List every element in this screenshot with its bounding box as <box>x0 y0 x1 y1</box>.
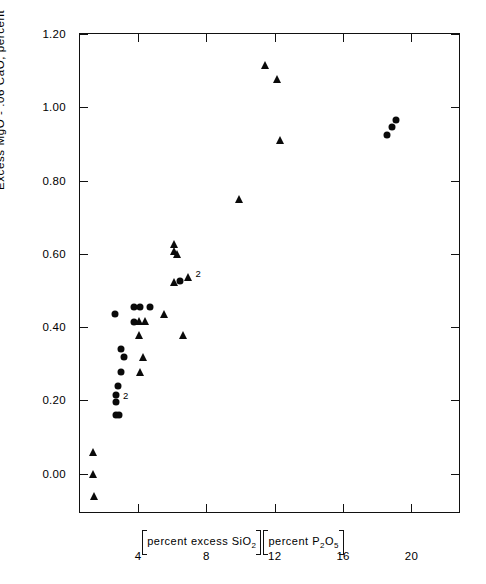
x-axis-tick <box>138 504 139 512</box>
y-axis-tick <box>80 400 88 401</box>
data-point-triangle <box>160 310 168 318</box>
y-axis-tick-label: 0.20 <box>6 394 66 406</box>
data-point-circle <box>383 131 390 138</box>
y-axis-tick-right <box>451 254 459 255</box>
x-axis-p2o5-text: percent P <box>268 535 320 547</box>
x-axis-tick-label: 4 <box>118 550 158 562</box>
data-point-circle <box>111 311 118 318</box>
data-point-triangle <box>135 331 143 339</box>
data-point-triangle <box>141 317 149 325</box>
data-point-circle <box>117 346 124 353</box>
data-point-circle <box>147 303 154 310</box>
y-axis-tick-label: 0.80 <box>6 175 66 187</box>
y-axis-tick-label: 1.20 <box>6 28 66 40</box>
data-point-triangle <box>89 448 97 456</box>
data-point-count-annotation: 2 <box>195 267 200 278</box>
data-point-triangle <box>173 250 181 258</box>
x-axis-bracket-sio2: percent excess SiO2 <box>142 535 261 550</box>
scatter-plot-figure: Excess MgO - .06 CaO, percent 1.201.000.… <box>0 0 486 584</box>
y-axis-tick <box>80 34 88 35</box>
data-point-circle <box>115 412 122 419</box>
data-point-triangle <box>90 492 98 500</box>
x-axis-tick <box>206 504 207 512</box>
data-point-triangle <box>235 195 243 203</box>
y-axis-tick-label: 0.40 <box>6 321 66 333</box>
data-point-triangle <box>139 353 147 361</box>
data-point-circle <box>121 354 128 361</box>
data-point-triangle <box>273 75 281 83</box>
y-axis-tick-right <box>451 181 459 182</box>
y-axis-tick <box>80 254 88 255</box>
y-axis-tick-right <box>451 34 459 35</box>
x-axis-tick-top <box>343 34 344 42</box>
data-point-circle <box>136 303 143 310</box>
y-axis-tick-label: 1.00 <box>6 101 66 113</box>
y-axis-tick-right <box>451 400 459 401</box>
data-point-circle <box>118 368 125 375</box>
x-axis-bracket-p2o5: percent P2O5 <box>263 535 343 550</box>
x-axis-tick-top <box>411 34 412 42</box>
x-axis-sio2-text: percent excess SiO <box>147 535 251 547</box>
x-axis-tick <box>275 504 276 512</box>
x-axis-tick-top <box>138 34 139 42</box>
x-axis-tick-top <box>275 34 276 42</box>
y-axis-tick <box>80 474 88 475</box>
data-point-circle <box>393 117 400 124</box>
data-point-circle <box>388 124 395 131</box>
x-axis-tick <box>411 504 412 512</box>
y-axis-tick-right <box>451 107 459 108</box>
x-axis-tick-label: 20 <box>391 550 431 562</box>
data-point-circle <box>114 383 121 390</box>
y-axis-tick <box>80 327 88 328</box>
y-axis-tick-label: 0.60 <box>6 248 66 260</box>
data-point-triangle <box>276 136 284 144</box>
x-axis-title: percent excess SiO2percent P2O5 <box>0 535 486 550</box>
y-axis-tick <box>80 181 88 182</box>
x-axis-p2o5-subscript-2: 5 <box>334 541 339 550</box>
data-point-triangle <box>89 470 97 478</box>
x-axis-tick-top <box>206 34 207 42</box>
data-point-count-annotation: 2 <box>123 389 128 400</box>
data-point-circle <box>113 399 120 406</box>
data-point-triangle <box>184 273 192 281</box>
y-axis-tick-label: 0.00 <box>6 468 66 480</box>
y-axis-tick-right <box>451 474 459 475</box>
data-point-triangle <box>261 61 269 69</box>
x-axis-tick-label: 8 <box>186 550 226 562</box>
data-point-triangle <box>170 278 178 286</box>
data-point-triangle <box>136 368 144 376</box>
y-axis-tick-right <box>451 327 459 328</box>
x-axis-tick <box>343 504 344 512</box>
x-axis-sio2-subscript: 2 <box>252 541 257 550</box>
y-axis-tick <box>80 107 88 108</box>
plot-frame: 1.201.000.800.600.400.200.004812162022 <box>79 33 460 513</box>
data-point-triangle <box>179 331 187 339</box>
data-point-circle <box>113 391 120 398</box>
x-axis-p2o5-o: O <box>325 535 334 547</box>
